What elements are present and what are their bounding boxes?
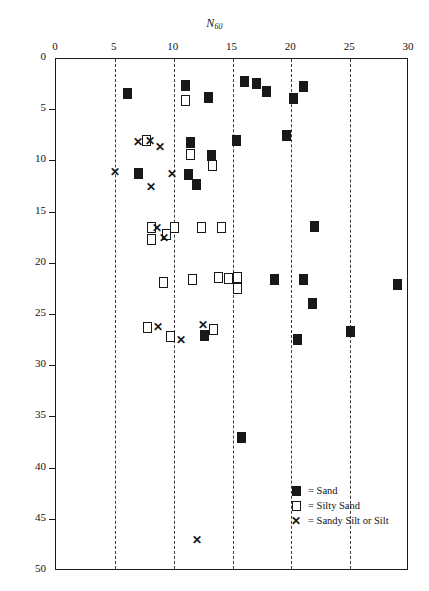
x-tick-label-15: 15	[217, 40, 247, 52]
data-point-silty-sand	[233, 283, 242, 294]
data-point-sand	[299, 81, 308, 92]
data-point-silty-sand	[147, 234, 156, 245]
data-point-sand	[192, 179, 201, 190]
x-axis-title-subscript: 60	[214, 22, 222, 31]
data-point-sandy-silt-or-silt: ✕	[159, 232, 170, 244]
data-point-sand	[299, 274, 308, 285]
data-point-silty-sand	[170, 222, 179, 233]
legend-item-label: = Sandy Silt or Silt	[304, 513, 389, 528]
data-point-silty-sand	[181, 95, 190, 106]
data-point-sand	[393, 279, 402, 290]
x-tick-label-25: 25	[334, 40, 364, 52]
y-tick-label-5: 5	[10, 101, 46, 113]
data-point-silty-sand	[214, 272, 223, 283]
data-point-sand	[252, 78, 261, 89]
data-point-sandy-silt-or-silt: ✕	[154, 141, 165, 153]
data-point-sandy-silt-or-silt: ✕	[146, 181, 157, 193]
legend-item: ✕= Sandy Silt or Silt	[288, 513, 389, 528]
y-tick-label-45: 45	[10, 511, 46, 523]
data-point-sandy-silt-or-silt: ✕	[109, 166, 120, 178]
filled-square-glyph	[292, 486, 301, 496]
legend-item-label: = Silty Sand	[304, 498, 360, 513]
data-point-sand	[123, 88, 132, 99]
data-point-silty-sand	[159, 277, 168, 288]
y-tick-label-25: 25	[10, 306, 46, 318]
x-tick-label-20: 20	[275, 40, 305, 52]
gridline-x-5	[115, 59, 116, 569]
data-point-sand	[293, 334, 302, 345]
data-point-sandy-silt-or-silt: ✕	[175, 334, 186, 346]
data-point-sand	[186, 137, 195, 148]
data-point-silty-sand	[208, 160, 217, 171]
legend-item: = Silty Sand	[288, 498, 389, 513]
legend-item: = Sand	[288, 483, 389, 498]
data-point-sand	[346, 326, 355, 337]
data-point-sand	[134, 168, 143, 179]
scatter-plot-figure: N60 051015202530 05101520253035404550 De…	[0, 0, 429, 591]
x-tick-label-10: 10	[158, 40, 188, 52]
data-point-sand	[262, 86, 271, 97]
data-point-sand	[232, 135, 241, 146]
data-point-sandy-silt-or-silt: ✕	[167, 168, 178, 180]
y-tick-label-0: 0	[10, 50, 46, 62]
x-axis-title: N60	[0, 16, 429, 31]
data-point-sand	[204, 92, 213, 103]
y-tick-label-30: 30	[10, 357, 46, 369]
data-point-silty-sand	[166, 331, 175, 342]
data-point-silty-sand	[143, 322, 152, 333]
x-tick-label-5: 5	[99, 40, 129, 52]
data-point-silty-sand	[197, 222, 206, 233]
open-square-icon	[288, 501, 304, 511]
gridline-x-10	[174, 59, 175, 569]
x-mark-icon: ✕	[288, 515, 304, 527]
data-point-sandy-silt-or-silt: ✕	[192, 534, 203, 546]
y-tick-label-40: 40	[10, 460, 46, 472]
data-point-sand	[289, 93, 298, 104]
legend-item-label: = Sand	[304, 483, 338, 498]
legend: = Sand= Silty Sand✕= Sandy Silt or Silt	[288, 483, 389, 528]
data-point-silty-sand	[186, 149, 195, 160]
open-square-glyph	[292, 501, 301, 511]
data-point-silty-sand	[217, 222, 226, 233]
y-tick-label-15: 15	[10, 204, 46, 216]
y-tick-label-50: 50	[10, 562, 46, 574]
data-point-sandy-silt-or-silt: ✕	[198, 319, 209, 331]
data-point-silty-sand	[188, 274, 197, 285]
data-point-sandy-silt-or-silt: ✕	[153, 321, 164, 333]
filled-square-icon	[288, 486, 304, 496]
y-tick-label-35: 35	[10, 408, 46, 420]
data-point-silty-sand	[233, 272, 242, 283]
y-tick-label-10: 10	[10, 152, 46, 164]
data-point-sand	[240, 76, 249, 87]
y-tick-label-20: 20	[10, 255, 46, 267]
data-point-sand	[237, 432, 246, 443]
data-point-sand	[181, 80, 190, 91]
x-mark-glyph: ✕	[291, 515, 301, 527]
data-point-silty-sand	[209, 324, 218, 335]
data-point-sand	[270, 274, 279, 285]
data-point-sandy-silt-or-silt: ✕	[133, 136, 144, 148]
data-point-sand	[282, 130, 291, 141]
x-tick-label-30: 30	[393, 40, 423, 52]
data-point-sand	[310, 221, 319, 232]
data-point-sand	[308, 298, 317, 309]
